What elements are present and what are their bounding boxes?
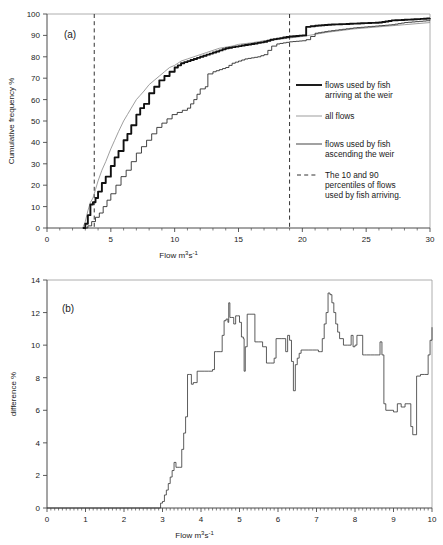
- svg-text:60: 60: [31, 96, 40, 105]
- svg-text:Flow m3s-1: Flow m3s-1: [175, 530, 214, 540]
- svg-text:9: 9: [391, 515, 396, 524]
- svg-text:30: 30: [426, 235, 435, 244]
- svg-text:8: 8: [36, 374, 41, 383]
- svg-text:30: 30: [31, 160, 40, 169]
- legend-label-3-0: The 10 and 90: [325, 170, 379, 180]
- figure-container: 0102030405060708090100051015202530Cumula…: [0, 0, 443, 545]
- svg-text:20: 20: [298, 235, 307, 244]
- svg-text:40: 40: [31, 138, 40, 147]
- legend-label-1-0: all flows: [325, 111, 355, 121]
- svg-text:12: 12: [31, 309, 40, 318]
- legend-item-1: all flows: [296, 111, 355, 121]
- panel-a-chart: 0102030405060708090100051015202530Cumula…: [0, 0, 443, 270]
- legend-item-0: flows used by fisharriving at the weir: [296, 80, 393, 100]
- svg-text:8: 8: [353, 515, 358, 524]
- svg-text:0: 0: [45, 515, 50, 524]
- svg-text:0: 0: [36, 224, 41, 233]
- svg-text:70: 70: [31, 74, 40, 83]
- legend-item-3: The 10 and 90percentiles of flowsused by…: [297, 170, 401, 200]
- svg-text:10: 10: [31, 203, 40, 212]
- svg-text:0: 0: [36, 504, 41, 513]
- svg-text:4: 4: [36, 439, 41, 448]
- svg-text:5: 5: [109, 235, 114, 244]
- panel-a-label: (a): [64, 29, 76, 40]
- svg-text:10: 10: [170, 235, 179, 244]
- svg-text:4: 4: [199, 515, 204, 524]
- panel-b-xlabel: Flow m3s-1: [175, 530, 214, 540]
- panel-a-axes: 0102030405060708090100051015202530: [27, 10, 435, 244]
- svg-text:80: 80: [31, 53, 40, 62]
- panel-a-legend: flows used by fisharriving at the weiral…: [296, 80, 401, 200]
- panel-b-chart: 02468101214012345678910difference %Flow …: [0, 270, 443, 545]
- svg-text:20: 20: [31, 181, 40, 190]
- svg-text:10: 10: [31, 341, 40, 350]
- svg-text:14: 14: [31, 276, 40, 285]
- svg-text:7: 7: [314, 515, 319, 524]
- svg-text:25: 25: [362, 235, 371, 244]
- svg-text:90: 90: [31, 31, 40, 40]
- panel-b-axes: 02468101214012345678910: [31, 276, 437, 524]
- svg-text:6: 6: [276, 515, 281, 524]
- legend-label-2-1: ascending the weir: [325, 149, 394, 159]
- panel-a-xlabel: Flow m3s-1: [159, 250, 198, 260]
- panel-b-label: (b): [62, 303, 74, 314]
- svg-text:2: 2: [122, 515, 127, 524]
- svg-text:15: 15: [234, 235, 243, 244]
- svg-text:6: 6: [36, 406, 41, 415]
- difference-step-curve: [47, 293, 432, 508]
- svg-text:5: 5: [237, 515, 242, 524]
- legend-label-0-1: arriving at the weir: [325, 90, 393, 100]
- svg-text:Flow m3s-1: Flow m3s-1: [159, 250, 198, 260]
- svg-text:10: 10: [428, 515, 437, 524]
- panel-b-ylabel: difference %: [9, 372, 18, 416]
- legend-label-3-1: percentiles of flows: [325, 180, 396, 190]
- panel-a-ylabel: Cumulative frequency %: [7, 78, 16, 165]
- svg-text:1: 1: [83, 515, 88, 524]
- legend-item-2: flows used by fishascending the weir: [296, 139, 394, 159]
- svg-text:100: 100: [27, 10, 41, 19]
- legend-label-3-2: used by fish arriving.: [325, 190, 401, 200]
- svg-text:0: 0: [45, 235, 50, 244]
- svg-text:50: 50: [31, 117, 40, 126]
- legend-label-2-0: flows used by fish: [325, 139, 391, 149]
- legend-label-0-0: flows used by fish: [325, 80, 391, 90]
- svg-text:3: 3: [160, 515, 165, 524]
- svg-text:2: 2: [36, 471, 41, 480]
